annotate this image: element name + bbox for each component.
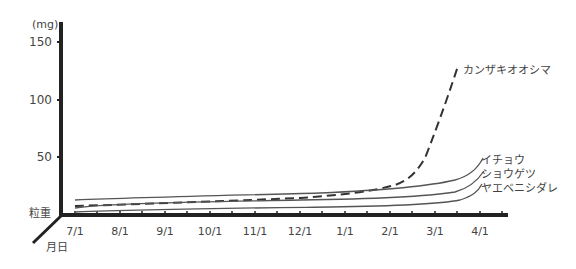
y-unit-label: (mg) xyxy=(32,18,58,31)
x-tick: 10/1 xyxy=(195,225,225,238)
x-tick: 3/1 xyxy=(420,225,450,238)
x-tick: 1/1 xyxy=(330,225,360,238)
y-tick-50: 50 xyxy=(20,150,52,164)
series-label-yaebenishidare: ヤエベニシダレ xyxy=(481,179,558,195)
series-kanzakioshima xyxy=(75,66,458,206)
x-tick: 2/1 xyxy=(375,225,405,238)
y-axis-label: 粒重 xyxy=(29,204,51,220)
x-tick: 4/1 xyxy=(465,225,495,238)
x-axis-label: 月日 xyxy=(46,238,68,254)
y-tick-100: 100 xyxy=(20,93,52,107)
x-tick: 12/1 xyxy=(285,225,315,238)
x-tick: 7/1 xyxy=(60,225,90,238)
series-shougetsu xyxy=(75,171,484,208)
x-tick: 8/1 xyxy=(105,225,135,238)
x-tick: 9/1 xyxy=(150,225,180,238)
y-tick-150: 150 xyxy=(20,35,52,49)
series-label-kanzakioshima: カンザキオオシマ xyxy=(463,61,551,77)
x-tick: 11/1 xyxy=(240,225,270,238)
